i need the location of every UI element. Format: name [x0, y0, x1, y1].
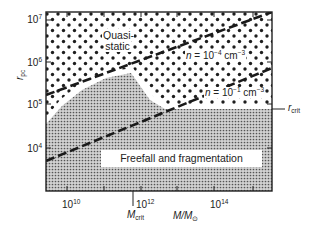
y-axis-label: rpc — [15, 70, 27, 80]
x-tick-label-1e10: 1010 — [62, 199, 80, 210]
regime-diagram — [0, 0, 319, 231]
y-tick-label-1e7: 107 — [12, 14, 42, 25]
x-tick-label-1e12: 1012 — [136, 199, 154, 210]
density-label-n1e-4: n = 10−4 cm−3 — [185, 50, 246, 61]
quasi-static-label: Quasi-static — [92, 30, 144, 51]
r-crit-label: rcrit — [288, 103, 300, 115]
y-tick-label-1e4: 104 — [12, 143, 42, 154]
x-tick-label-1e14: 1014 — [210, 199, 228, 210]
x-axis-label: M/M⊙ — [173, 211, 198, 223]
y-tick-label-1e6: 106 — [12, 57, 42, 68]
m-crit-label: Mcrit — [127, 210, 144, 222]
density-label-n1e-1: n = 10−1 cm−3 — [204, 87, 265, 98]
freefall-label: Freefall and fragmentation — [101, 150, 262, 167]
y-tick-label-1e5: 105 — [12, 99, 42, 110]
